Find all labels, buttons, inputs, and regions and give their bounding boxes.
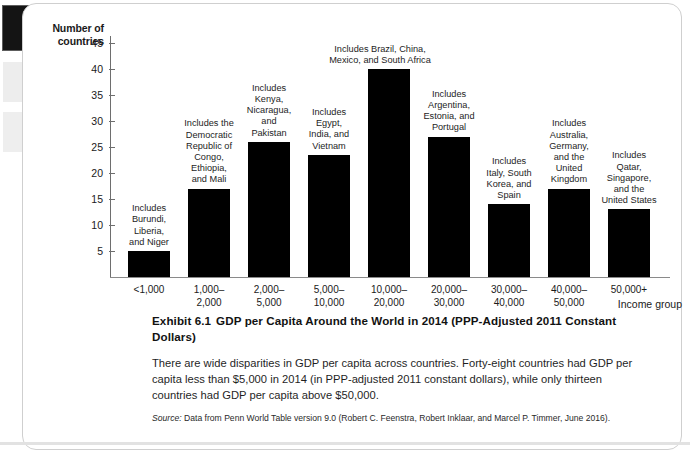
y-axis-tick-label-20: 20 — [73, 168, 103, 178]
bar-note-line: Congo, — [176, 152, 242, 163]
y-axis-tick-label-25: 25 — [73, 142, 103, 152]
bar-note-line: Includes — [236, 83, 302, 94]
bar-note-line: and Niger — [116, 237, 182, 248]
source-label: Source: — [152, 413, 182, 423]
bar-slot: Includes theDemocraticRepublic ofCongo,E… — [179, 16, 239, 277]
bar-50000-plus[interactable] — [608, 209, 650, 277]
bar-note-line: Includes — [116, 203, 182, 214]
bar-note-line: and the — [536, 152, 602, 163]
y-axis-tick-label-10: 10 — [73, 220, 103, 230]
bar-30000-40000[interactable] — [488, 204, 530, 277]
bar-note-line: and — [236, 116, 302, 127]
bar-note-line: Estonia, and — [416, 111, 482, 122]
bar-note-line: India, and — [296, 129, 362, 140]
bar-note-line: Burundi, — [116, 214, 182, 225]
exhibit-label: Exhibit 6.1 — [152, 314, 211, 327]
bar-note-line: Democratic — [176, 130, 242, 141]
bar-slot: IncludesKenya,Nicaragua,andPakistan — [239, 16, 299, 277]
y-axis-title-line1: Number of — [28, 22, 104, 35]
bar-note-line: Spain — [476, 190, 542, 201]
caption-body: There are wide disparities in GDP per ca… — [152, 355, 642, 403]
source-text: Data from Penn World Table version 9.0 (… — [184, 413, 610, 423]
bar-note-line: Kingdom — [536, 174, 602, 185]
bar-note-line: Singapore, — [596, 173, 662, 184]
bar-annotation: IncludesArgentina,Estonia, andPortugal — [416, 89, 482, 134]
bar-note-line: Includes — [536, 118, 602, 129]
page-bottom-rule — [0, 442, 690, 445]
bar-note-line: Germany, — [536, 141, 602, 152]
bar-slot: Includes Brazil, China,Mexico, and South… — [359, 16, 419, 277]
exhibit-title-text: GDP per Capita Around the World in 2014 … — [152, 314, 616, 343]
bar-annotation: IncludesKenya,Nicaragua,andPakistan — [236, 83, 302, 139]
bar-note-line: Liberia, — [116, 226, 182, 237]
source-note: Source: Data from Penn World Table versi… — [152, 413, 642, 425]
y-axis-tick-label-15: 15 — [73, 194, 103, 204]
bar-slot: IncludesBurundi,Liberia,and Niger — [119, 16, 179, 277]
bar-note-line: Includes — [296, 107, 362, 118]
bar-5000-10000[interactable] — [308, 155, 350, 277]
bar-note-line: Ethiopia, — [176, 163, 242, 174]
x-tick-label-line1: 50,000+ — [594, 284, 664, 297]
bar-annotation: Includes theDemocraticRepublic ofCongo,E… — [176, 118, 242, 185]
bar-note-line: Italy, South — [476, 168, 542, 179]
bar-40000-50000[interactable] — [548, 189, 590, 277]
bar-note-line: Egypt, — [296, 118, 362, 129]
bar-note-line: Portugal — [416, 122, 482, 133]
bar-annotation: IncludesEgypt,India, andVietnam — [296, 107, 362, 152]
bar-note-line: Argentina, — [416, 100, 482, 111]
bar-annotation: IncludesItaly, SouthKorea, andSpain — [476, 156, 542, 201]
bar-slot: IncludesQatar,Singapore,and theUnited St… — [599, 16, 659, 277]
bar-annotation: IncludesAustralia,Germany,and theUnitedK… — [536, 118, 602, 185]
bar-note-line: United — [536, 163, 602, 174]
bar-slot: IncludesAustralia,Germany,and theUnitedK… — [539, 16, 599, 277]
bar-note-line: Includes — [476, 156, 542, 167]
bar-note-line: and Mali — [176, 174, 242, 185]
bar-annotation: IncludesBurundi,Liberia,and Niger — [116, 203, 182, 248]
bar-10000-20000[interactable] — [368, 69, 410, 277]
bar-note-line: Australia, — [536, 130, 602, 141]
bar-note-line: United States — [596, 195, 662, 206]
exhibit-caption: Exhibit 6.1GDP per Capita Around the Wor… — [152, 313, 642, 425]
bar-note-line: Republic of — [176, 141, 242, 152]
exhibit-title: Exhibit 6.1GDP per Capita Around the Wor… — [152, 313, 642, 344]
bar-1000-2000[interactable] — [188, 189, 230, 277]
bar-note-line: Vietnam — [296, 141, 362, 152]
x-tick-label-line2: 50,000 — [534, 297, 604, 310]
bar-note-line: and the — [596, 184, 662, 195]
y-axis-tick-label-30: 30 — [73, 116, 103, 126]
y-axis-tick-label-35: 35 — [73, 90, 103, 100]
bar-series: IncludesBurundi,Liberia,and NigerInclude… — [110, 16, 670, 278]
bar-note-line: Korea, and — [476, 179, 542, 190]
bar-note-line: Kenya, — [236, 94, 302, 105]
x-axis-title: Income group — [618, 298, 682, 310]
y-axis-tick-label-40: 40 — [73, 64, 103, 74]
y-axis-tick-label-45: 45 — [73, 38, 103, 48]
bar-note-line: Includes — [416, 89, 482, 100]
bar-lt-1000[interactable] — [128, 251, 170, 277]
bar-note-line: Nicaragua, — [236, 105, 302, 116]
bar-note-line: Includes — [596, 150, 662, 161]
x-tick-label-bar-50000-plus: 50,000+ — [594, 284, 664, 297]
bar-annotation: IncludesQatar,Singapore,and theUnited St… — [596, 150, 662, 206]
y-axis-tick-label-5: 5 — [73, 246, 103, 256]
bar-20000-30000[interactable] — [428, 137, 470, 277]
bar-note-line: Includes the — [176, 118, 242, 129]
bar-slot: IncludesItaly, SouthKorea, andSpain — [479, 16, 539, 277]
bar-slot: IncludesArgentina,Estonia, andPortugal — [419, 16, 479, 277]
bar-note-line: Pakistan — [236, 128, 302, 139]
plot-area: 51015202530354045 IncludesBurundi,Liberi… — [110, 16, 670, 278]
bar-2000-5000[interactable] — [248, 142, 290, 277]
bar-note-line: Qatar, — [596, 162, 662, 173]
bar-chart: Number of countries 51015202530354045 In… — [22, 8, 682, 308]
